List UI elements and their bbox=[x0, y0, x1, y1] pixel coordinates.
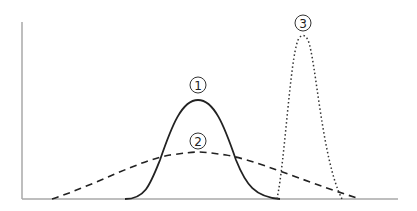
curve-2-dashed bbox=[52, 152, 360, 199]
diagram-canvas: 1 2 3 bbox=[0, 0, 417, 211]
label-3-text: 3 bbox=[299, 17, 307, 31]
label-2-text: 2 bbox=[194, 135, 202, 149]
label-2-marker: 2 bbox=[190, 133, 206, 149]
distribution-diagram: 1 2 3 bbox=[0, 0, 417, 211]
label-1-marker: 1 bbox=[190, 77, 206, 93]
curve-3-dotted bbox=[277, 36, 342, 200]
label-3-marker: 3 bbox=[295, 15, 311, 31]
curve-1-solid bbox=[125, 100, 280, 199]
label-1-text: 1 bbox=[194, 79, 202, 93]
